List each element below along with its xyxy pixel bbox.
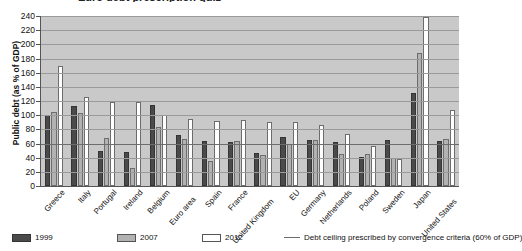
y-axis-tick-labels: 020406080100120140160180200220240 bbox=[0, 16, 38, 186]
x-axis-tick-label: EU bbox=[288, 188, 302, 202]
gridline bbox=[41, 59, 459, 60]
chart-title: Euro debt prescription quiz bbox=[78, 0, 378, 2]
x-axis-tick-label: Ireland bbox=[122, 188, 145, 212]
y-axis-tick-label: 220 bbox=[5, 26, 35, 34]
y-axis-tick-label: 120 bbox=[5, 97, 35, 105]
legend-label: 1999 bbox=[35, 233, 53, 242]
bar-2007 bbox=[51, 112, 56, 186]
bar-2012 bbox=[162, 115, 167, 186]
bar-2012 bbox=[58, 66, 63, 186]
bar-2012 bbox=[345, 134, 350, 186]
debt-ceiling-line bbox=[41, 144, 459, 145]
gridline bbox=[41, 87, 459, 88]
bar-2012 bbox=[267, 122, 272, 186]
y-axis-tick-label: 160 bbox=[5, 69, 35, 77]
x-axis-tick-label: Euro area bbox=[167, 195, 197, 227]
legend-item[interactable]: Debt ceiling prescribed by convergence c… bbox=[284, 233, 522, 242]
legend-color-swatch bbox=[117, 234, 136, 242]
bar-2007 bbox=[313, 140, 318, 186]
bar-2012 bbox=[450, 110, 455, 186]
gridline bbox=[41, 172, 459, 173]
gridline bbox=[41, 30, 459, 31]
legend-line-swatch bbox=[284, 237, 300, 238]
y-axis-tick-label: 0 bbox=[5, 182, 35, 190]
x-axis-tick-label: Italy bbox=[76, 188, 93, 205]
y-axis-tick-label: 240 bbox=[5, 12, 35, 20]
gridline bbox=[41, 129, 459, 130]
legend-color-swatch bbox=[202, 234, 221, 242]
y-axis-tick-label: 40 bbox=[5, 154, 35, 162]
x-axis-tick-label: Sweden bbox=[380, 188, 406, 216]
y-axis-tick-label: 20 bbox=[5, 168, 35, 176]
gridline bbox=[41, 158, 459, 159]
gridline bbox=[41, 115, 459, 116]
plot-area bbox=[40, 16, 459, 187]
y-axis-tick-label: 140 bbox=[5, 83, 35, 91]
x-axis-tick-label: Poland bbox=[357, 188, 380, 213]
legend-label: Debt ceiling prescribed by convergence c… bbox=[304, 233, 522, 242]
legend-item[interactable]: 2012 bbox=[202, 233, 243, 242]
y-axis-tick-label: 60 bbox=[5, 140, 35, 148]
legend-item[interactable]: 2007 bbox=[117, 233, 158, 242]
bar-2012 bbox=[319, 125, 324, 186]
legend-color-swatch bbox=[12, 234, 31, 242]
y-axis-tick-label: 200 bbox=[5, 40, 35, 48]
x-axis-tick-label: Greece bbox=[43, 188, 67, 214]
gridline bbox=[41, 101, 459, 102]
x-axis-tick-label: France bbox=[226, 188, 249, 213]
gridline bbox=[41, 16, 459, 17]
legend-item[interactable]: 1999 bbox=[12, 233, 53, 242]
x-axis-tick-label: Japan bbox=[411, 188, 432, 210]
bar-1999 bbox=[45, 115, 50, 186]
gridline bbox=[41, 73, 459, 74]
legend-label: 2007 bbox=[140, 233, 158, 242]
y-axis-tick-label: 80 bbox=[5, 125, 35, 133]
chart-title-clipped: Euro debt prescription quiz bbox=[78, 0, 378, 2]
bar-2007 bbox=[104, 138, 109, 186]
y-axis-tick-label: 100 bbox=[5, 111, 35, 119]
y-axis-tick-label: 180 bbox=[5, 55, 35, 63]
x-axis-tick-label: Portugal bbox=[92, 188, 119, 216]
chart-legend: 199920072012Debt ceiling prescribed by c… bbox=[12, 232, 463, 248]
gridline bbox=[41, 44, 459, 45]
x-axis-tick-label: Belgium bbox=[145, 188, 171, 216]
legend-label: 2012 bbox=[225, 233, 243, 242]
